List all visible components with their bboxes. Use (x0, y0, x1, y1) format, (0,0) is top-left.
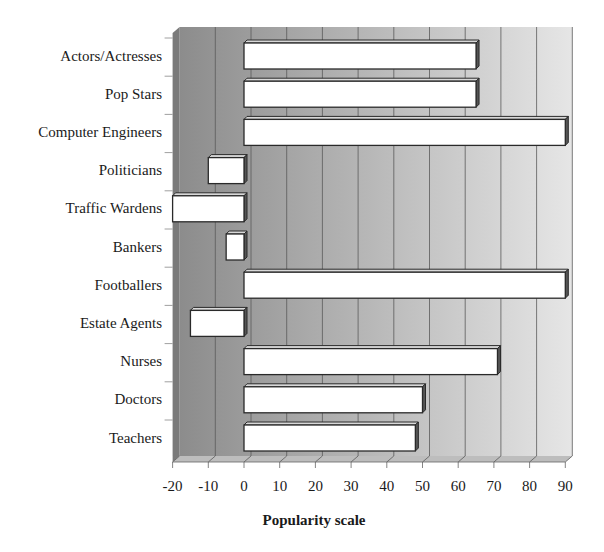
bar-front-face (244, 349, 497, 375)
category-label: Computer Engineers (38, 123, 162, 141)
side-wall (173, 27, 180, 462)
category-label: Estate Agents (80, 314, 162, 332)
bar-front-face (244, 119, 565, 145)
floor (173, 456, 573, 462)
category-label: Traffic Wardens (66, 199, 162, 217)
bar-front-face (244, 387, 423, 413)
x-tick-label: 10 (260, 478, 300, 495)
x-tick-label: 40 (367, 478, 407, 495)
x-tick-label: 30 (331, 478, 371, 495)
bar-front-face (244, 81, 476, 107)
bar-front-face (208, 158, 244, 184)
x-tick-label: 20 (295, 478, 335, 495)
x-axis-title: Popularity scale (214, 512, 414, 529)
x-tick-label: 0 (224, 478, 264, 495)
category-label: Bankers (113, 238, 162, 256)
category-label: Nurses (120, 352, 162, 370)
category-label: Teachers (109, 429, 162, 447)
x-tick-label: 90 (545, 478, 585, 495)
bar-front-face (190, 310, 244, 336)
x-tick-label: -20 (153, 478, 193, 495)
bar-front-face (244, 43, 476, 69)
bar-front-face (244, 272, 565, 298)
x-tick-label: -10 (188, 478, 228, 495)
bar-front-face (173, 196, 244, 222)
popularity-bar-chart: Actors/ActressesPop StarsComputer Engine… (0, 0, 604, 552)
x-tick-label: 60 (438, 478, 478, 495)
category-label: Actors/Actresses (60, 47, 162, 65)
x-tick-label: 80 (510, 478, 550, 495)
category-label: Politicians (99, 161, 162, 179)
category-label: Doctors (115, 390, 163, 408)
category-label: Footballers (95, 276, 163, 294)
bar-front-face (244, 425, 415, 451)
x-tick-label: 70 (474, 478, 514, 495)
bar-front-face (226, 234, 244, 260)
x-tick-label: 50 (403, 478, 443, 495)
category-label: Pop Stars (105, 85, 162, 103)
plot-area (0, 0, 604, 552)
